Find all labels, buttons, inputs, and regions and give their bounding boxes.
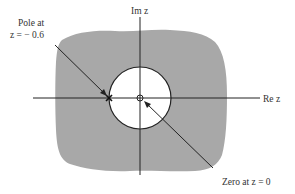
pole-label-line1: Pole at xyxy=(18,18,44,28)
z-plane-diagram: Im z Re z Pole at z = − 0.6 Zero at z = … xyxy=(0,0,295,194)
real-axis-label: Re z xyxy=(263,94,280,104)
pole-label-line2: z = − 0.6 xyxy=(10,30,44,40)
zero-label: Zero at z = 0 xyxy=(222,177,271,187)
imag-axis-label: Im z xyxy=(131,6,148,16)
